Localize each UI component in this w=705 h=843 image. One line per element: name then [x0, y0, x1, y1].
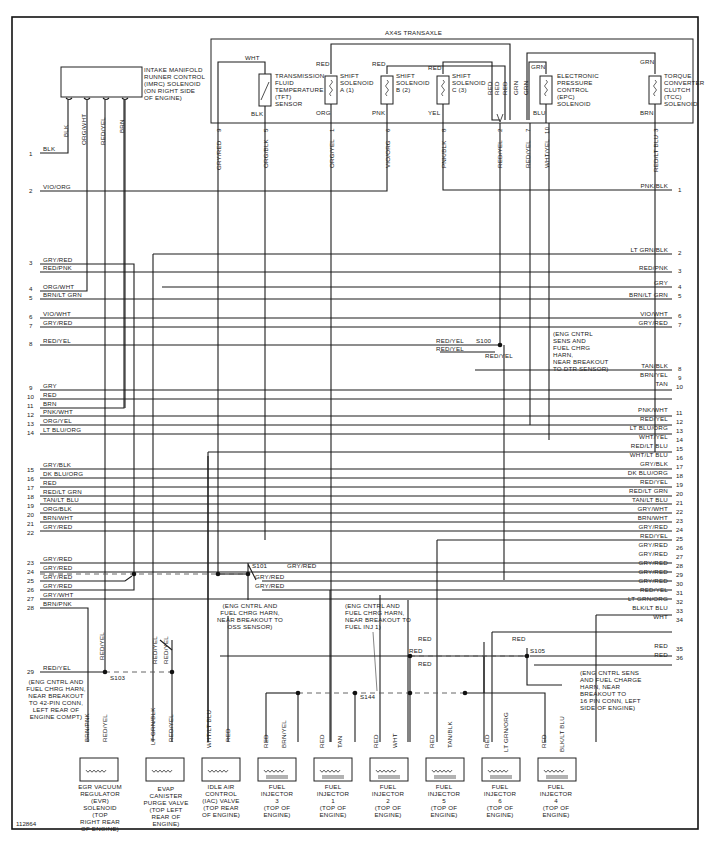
- fuel-injector-4: RED BLK/LT BLU FUEL INJECTOR 4 (TOP OF E…: [538, 716, 576, 818]
- svg-text:TORQUE: TORQUE: [664, 72, 692, 79]
- svg-text:34: 34: [676, 616, 683, 623]
- svg-text:16: 16: [676, 454, 683, 461]
- svg-text:RED/PNK: RED/PNK: [639, 264, 669, 271]
- svg-text:INJECTOR: INJECTOR: [261, 790, 294, 797]
- svg-text:GRY: GRY: [654, 279, 668, 286]
- svg-text:RED/YEL: RED/YEL: [167, 714, 174, 742]
- svg-text:BLK: BLK: [251, 110, 264, 117]
- svg-text:SOLENOID: SOLENOID: [664, 100, 698, 107]
- svg-text:31: 31: [676, 589, 683, 596]
- svg-text:RED/LT GRN: RED/LT GRN: [629, 487, 668, 494]
- svg-text:15: 15: [27, 466, 34, 473]
- svg-text:26: 26: [676, 544, 683, 551]
- svg-text:GRY/RED: GRY/RED: [287, 562, 317, 569]
- splice-s103: [103, 670, 108, 675]
- svg-text:SHIFT: SHIFT: [396, 72, 415, 79]
- fuel-injector-2: RED WHT FUEL INJECTOR 2 (TOP OF ENGINE): [370, 733, 408, 818]
- svg-text:RED: RED: [409, 647, 423, 654]
- svg-text:RED: RED: [316, 60, 330, 67]
- svg-text:PNK/WHT: PNK/WHT: [43, 408, 73, 415]
- svg-text:CONTROL: CONTROL: [557, 86, 589, 93]
- svg-text:OSS SENSOR): OSS SENSOR): [227, 623, 272, 630]
- svg-text:27: 27: [27, 595, 34, 602]
- svg-text:BRN: BRN: [640, 109, 654, 116]
- svg-text:NEAR BREAKOUT: NEAR BREAKOUT: [28, 692, 84, 699]
- svg-text:2: 2: [678, 249, 682, 256]
- svg-text:29: 29: [27, 668, 34, 675]
- svg-text:RIGHT REAR: RIGHT REAR: [80, 818, 120, 825]
- svg-text:CONVERTER: CONVERTER: [664, 79, 705, 86]
- svg-text:15: 15: [676, 445, 683, 452]
- transaxle-title: AX4S TRANSAXLE: [385, 29, 442, 36]
- svg-text:23: 23: [676, 517, 683, 524]
- svg-text:21: 21: [27, 520, 34, 527]
- svg-text:26: 26: [27, 586, 34, 593]
- svg-text:RED: RED: [372, 60, 386, 67]
- svg-text:RED: RED: [486, 81, 493, 95]
- svg-text:ENGINE): ENGINE): [152, 820, 179, 827]
- svg-text:(TOP OF: (TOP OF: [375, 804, 401, 811]
- svg-text:RED: RED: [501, 81, 508, 95]
- svg-text:PNK: PNK: [372, 109, 386, 116]
- svg-text:(ENG CNTRL AND: (ENG CNTRL AND: [223, 602, 278, 609]
- svg-text:8: 8: [678, 365, 682, 372]
- svg-text:GRY/RED: GRY/RED: [639, 523, 669, 530]
- svg-text:5: 5: [442, 797, 446, 804]
- svg-text:WHT/YEL: WHT/YEL: [639, 433, 668, 440]
- svg-text:FUEL CHRG HARN,: FUEL CHRG HARN,: [345, 609, 405, 616]
- svg-text:12: 12: [676, 418, 683, 425]
- svg-text:(TOP OF: (TOP OF: [264, 804, 290, 811]
- svg-text:5: 5: [29, 294, 33, 301]
- svg-text:ORG/WHT: ORG/WHT: [43, 283, 74, 290]
- svg-text:7: 7: [678, 321, 682, 328]
- svg-text:GRY/WHT: GRY/WHT: [637, 505, 668, 512]
- svg-text:GRY: GRY: [43, 382, 57, 389]
- svg-text:RED/YEL: RED/YEL: [151, 636, 158, 664]
- svg-text:BRN/YEL: BRN/YEL: [280, 720, 287, 748]
- splice-s144: [353, 691, 358, 696]
- svg-text:FUEL CHRG HARN,: FUEL CHRG HARN,: [26, 685, 86, 692]
- svg-text:3: 3: [275, 797, 279, 804]
- svg-text:25: 25: [27, 577, 34, 584]
- svg-text:RED: RED: [493, 81, 500, 95]
- svg-text:RED: RED: [43, 479, 57, 486]
- svg-text:(TOP: (TOP: [92, 811, 107, 818]
- svg-text:ORG: ORG: [316, 109, 331, 116]
- svg-text:LT BLU/ORG: LT BLU/ORG: [43, 426, 81, 433]
- svg-text:(TCC): (TCC): [664, 93, 682, 100]
- svg-text:INTAKE MANIFOLD: INTAKE MANIFOLD: [144, 66, 203, 73]
- svg-text:ORG/WHT: ORG/WHT: [80, 114, 87, 145]
- ax4s-transaxle: AX4S TRANSAXLE WHT TRANSMISSION FLUID TE…: [211, 29, 705, 172]
- splice-s100: [498, 343, 503, 348]
- svg-text:(TOP OF: (TOP OF: [431, 804, 457, 811]
- svg-text:EGR VACUUM: EGR VACUUM: [78, 783, 121, 790]
- svg-text:FUEL: FUEL: [325, 783, 342, 790]
- wiring-diagram: INTAKE MANIFOLD RUNNER CONTROL (IMRC) SO…: [0, 0, 705, 843]
- svg-text:28: 28: [676, 562, 683, 569]
- svg-text:25: 25: [676, 535, 683, 542]
- svg-text:SOLENOID: SOLENOID: [340, 79, 374, 86]
- svg-text:RED/YEL: RED/YEL: [43, 664, 71, 671]
- svg-text:(EVR): (EVR): [91, 797, 109, 804]
- svg-text:10: 10: [27, 393, 34, 400]
- svg-text:22: 22: [27, 529, 34, 536]
- svg-text:SENS AND: SENS AND: [553, 337, 586, 344]
- svg-text:35: 35: [676, 645, 683, 652]
- svg-text:RED/LT BLU: RED/LT BLU: [631, 442, 668, 449]
- svg-text:4: 4: [554, 797, 558, 804]
- svg-text:GRY/RED: GRY/RED: [639, 319, 669, 326]
- svg-text:BRN/WHT: BRN/WHT: [638, 514, 668, 521]
- svg-text:4: 4: [29, 285, 33, 292]
- svg-text:INJECTOR: INJECTOR: [372, 790, 405, 797]
- svg-text:NEAR BREAKOUT TO: NEAR BREAKOUT TO: [217, 616, 283, 623]
- svg-text:INJECTOR: INJECTOR: [428, 790, 461, 797]
- svg-text:BLU: BLU: [533, 109, 546, 116]
- svg-text:S101: S101: [252, 562, 268, 569]
- svg-text:CANISTER: CANISTER: [150, 792, 183, 799]
- svg-text:9: 9: [29, 384, 33, 391]
- svg-text:BRN: BRN: [43, 400, 57, 407]
- svg-text:NEAR BREAKOUT: NEAR BREAKOUT: [553, 358, 609, 365]
- svg-text:VIO/WHT: VIO/WHT: [640, 310, 668, 317]
- svg-text:GRY/RED: GRY/RED: [639, 541, 669, 548]
- svg-text:INJECTOR: INJECTOR: [540, 790, 573, 797]
